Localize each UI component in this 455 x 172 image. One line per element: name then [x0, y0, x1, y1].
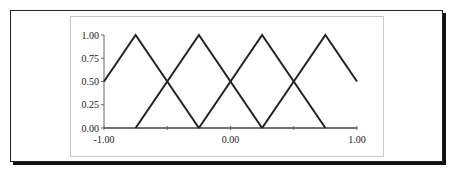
y-tick-label: 1.00: [82, 30, 100, 41]
x-tick-label: 0.00: [222, 134, 240, 145]
triangle-3-line: [199, 35, 326, 128]
triangle-4-line: [262, 35, 357, 128]
triangle-1-line: [104, 35, 199, 128]
y-tick-label: 0.00: [82, 123, 100, 134]
triangle-2-line: [136, 35, 263, 128]
series-lines: [104, 35, 357, 128]
y-tick-label: 0.50: [82, 76, 100, 87]
y-tick-label: 0.75: [82, 53, 100, 64]
x-tick-label: -1.00: [94, 134, 115, 145]
membership-function-chart: 0.000.250.500.751.00-1.000.001.00: [0, 0, 455, 172]
axes: 0.000.250.500.751.00-1.000.001.00: [82, 30, 366, 146]
x-tick-label: 1.00: [348, 134, 366, 145]
y-tick-label: 0.25: [82, 99, 100, 110]
